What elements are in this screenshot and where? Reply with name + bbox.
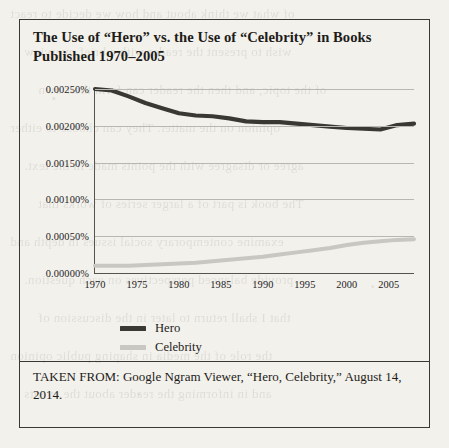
chart-series-layer [95, 89, 414, 273]
plot-area: 0.00000%0.00050%0.00100%0.00150%0.00200%… [94, 89, 414, 274]
chart-area: 0.00000%0.00050%0.00100%0.00150%0.00200%… [20, 20, 431, 320]
x-axis-tick-label: 1990 [252, 279, 273, 290]
chart-legend: HeroCelebrity [120, 319, 202, 357]
series-line-hero [95, 89, 414, 129]
y-axis-tick-label: 0.00100% [46, 194, 89, 205]
figure-source-caption: TAKEN FROM: Google Ngram Viewer, “Hero, … [33, 368, 413, 404]
x-axis-tick-label: 1995 [294, 279, 315, 290]
figure-box: The Use of “Hero” vs. the Use of “Celebr… [19, 19, 430, 428]
legend-swatch-icon [120, 326, 146, 331]
gridline [95, 89, 414, 90]
x-axis-tick-label: 1980 [168, 279, 189, 290]
legend-label: Hero [155, 321, 180, 336]
y-axis-tick-label: 0.00150% [46, 157, 89, 168]
x-axis-tick-label: 1975 [126, 279, 147, 290]
y-axis-tick-label: 0.00000% [46, 268, 89, 279]
gridline [95, 126, 414, 127]
legend-item-celebrity: Celebrity [120, 338, 202, 357]
caption-divider [20, 361, 429, 362]
x-axis-tick-label: 2005 [378, 279, 399, 290]
x-axis-tick-label: 2000 [336, 279, 357, 290]
gridline [95, 163, 414, 164]
legend-item-hero: Hero [120, 319, 202, 338]
gridline [95, 199, 414, 200]
x-axis-tick-label: 1970 [84, 279, 105, 290]
series-line-celebrity [95, 239, 414, 266]
legend-swatch-icon [120, 345, 146, 350]
y-axis-tick-label: 0.00200% [46, 120, 89, 131]
y-axis-tick-label: 0.00250% [46, 84, 89, 95]
x-axis-tick-label: 1985 [210, 279, 231, 290]
y-axis-tick-label: 0.00050% [46, 231, 89, 242]
gridline [95, 236, 414, 237]
legend-label: Celebrity [155, 340, 202, 355]
